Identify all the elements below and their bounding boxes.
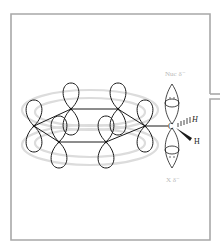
p-orbital-lower-lobe <box>51 142 67 168</box>
nuc-lobe <box>165 84 179 124</box>
x-lobe-ring <box>165 146 179 154</box>
nuc-lone-pair-dot <box>173 97 175 99</box>
ring-atom-3 <box>117 108 120 111</box>
ring-atom-1 <box>33 125 36 128</box>
p-orbital-upper-lobe <box>110 83 126 109</box>
carbon-label: C <box>168 122 173 131</box>
nuc-lone-pair-dot <box>169 97 171 99</box>
hydrogen-wedge-label: H <box>194 137 200 146</box>
hydrogen-hashed-label: H <box>191 115 199 124</box>
leaving-group-label: X δ⁻ <box>166 176 180 184</box>
x-lone-pair-dot <box>173 156 175 158</box>
diagram-canvas: Nuc δ⁻ X δ⁻ C H H <box>0 0 220 248</box>
nuc-lobe-ring <box>165 99 179 107</box>
x-lone-pair-dot <box>169 156 171 158</box>
p-orbital-upper-lobe <box>26 100 42 126</box>
x-lobe <box>165 128 179 168</box>
p-orbital-upper-lobe <box>98 116 114 142</box>
p-orbital-lower-lobe <box>98 142 114 168</box>
ring-atom-6 <box>58 141 61 144</box>
pi-electron-cloud <box>22 90 158 165</box>
nucleophile-label: Nuc δ⁻ <box>165 70 186 78</box>
ring-atom-2 <box>70 108 73 111</box>
p-orbital-lower-lobe <box>137 126 153 152</box>
p-orbital-upper-lobe <box>63 83 79 109</box>
ring-atom-4 <box>144 125 147 128</box>
ring-atom-5 <box>105 141 108 144</box>
hashed-bond <box>178 117 190 127</box>
wedge-bond <box>176 128 192 141</box>
